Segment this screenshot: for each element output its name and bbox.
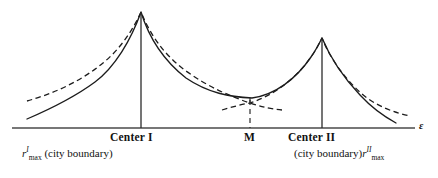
left-city-boundary-caption: rImax (city boundary) [22, 147, 113, 159]
tick-label-center-ii: Center II [288, 131, 335, 143]
solid-bid-rent-curve [27, 12, 396, 123]
right-caption-subscript: max [371, 153, 384, 162]
right-city-boundary-caption: (city boundary)rIImax [294, 147, 384, 159]
tick-label-center-i: Center I [110, 131, 153, 143]
left-caption-subscript: max [29, 153, 42, 162]
dashed-bid-rent-curve-left [27, 12, 282, 110]
tick-label-m: M [244, 131, 255, 143]
bid-rent-figure: Center I M Center II ε rImax (city bound… [0, 0, 438, 178]
right-caption-text: (city boundary) [294, 147, 362, 159]
axis-variable-label: ε [419, 120, 423, 131]
left-caption-text: (city boundary) [44, 147, 112, 159]
